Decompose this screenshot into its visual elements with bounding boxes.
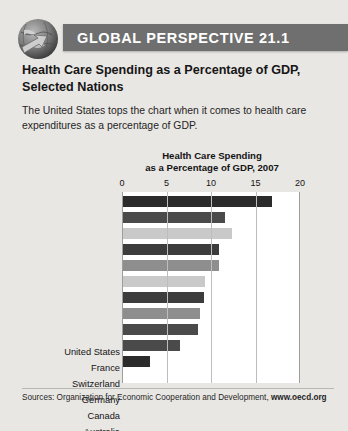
bar-united-kingdom bbox=[122, 308, 200, 319]
source-url: www.oecd.org bbox=[271, 393, 327, 402]
category-label-united-states: United States bbox=[8, 347, 120, 357]
footer-divider bbox=[22, 388, 334, 389]
chart-title: Health Care Spending as a Percentage of … bbox=[122, 150, 302, 175]
bar-australia bbox=[122, 276, 205, 287]
bar-mexico bbox=[122, 340, 180, 351]
chart-title-line-1: Health Care Spending bbox=[122, 150, 302, 162]
globe-with-arrow-icon bbox=[12, 14, 68, 62]
bar-united-states bbox=[122, 196, 272, 207]
source-note: Sources: Organization for Economic Coope… bbox=[22, 392, 334, 403]
gridline-0 bbox=[122, 192, 123, 383]
y-axis-category-labels: United StatesFranceSwitzerlandGermanyCan… bbox=[8, 342, 120, 431]
chart-plot-area bbox=[122, 192, 300, 383]
category-label-australia: Australia bbox=[8, 427, 120, 431]
bar-switzerland bbox=[122, 228, 232, 239]
x-tick-20: 20 bbox=[295, 178, 305, 188]
gridline-20 bbox=[299, 192, 300, 383]
category-label-canada: Canada bbox=[8, 411, 120, 421]
bar-italy bbox=[122, 292, 204, 303]
bar-singapore bbox=[122, 356, 150, 367]
x-axis-tick-labels: 05101520 bbox=[122, 178, 300, 192]
x-tick-5: 5 bbox=[164, 178, 169, 188]
gridline-15 bbox=[256, 192, 257, 383]
source-text: Sources: Organization for Economic Coope… bbox=[22, 393, 269, 402]
bar-canada bbox=[122, 260, 219, 271]
category-label-france: France bbox=[8, 363, 120, 373]
bar-japan bbox=[122, 324, 198, 335]
gridline-10 bbox=[211, 192, 212, 383]
bar-france bbox=[122, 212, 225, 223]
feature-band-title: GLOBAL PERSPECTIVE 21.1 bbox=[77, 30, 290, 46]
page-title: Health Care Spending as a Percentage of … bbox=[22, 62, 332, 95]
feature-body-text: The United States tops the chart when it… bbox=[22, 104, 328, 134]
chart-title-line-2: as a Percentage of GDP, 2007 bbox=[122, 162, 302, 174]
x-tick-15: 15 bbox=[250, 178, 260, 188]
gridline-5 bbox=[167, 192, 168, 383]
feature-header-band: GLOBAL PERSPECTIVE 21.1 bbox=[63, 24, 348, 51]
x-tick-10: 10 bbox=[206, 178, 216, 188]
chart-container: Health Care Spending as a Percentage of … bbox=[0, 150, 348, 388]
x-tick-0: 0 bbox=[119, 178, 124, 188]
bar-germany bbox=[122, 244, 219, 255]
